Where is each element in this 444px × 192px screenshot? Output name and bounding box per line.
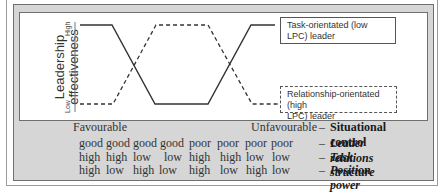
cell: good: [79, 136, 103, 151]
cell: high: [133, 163, 154, 178]
favourable-label: Favourable: [73, 120, 127, 135]
row-dash: –: [319, 136, 325, 151]
cell: poor: [245, 136, 267, 151]
relationship-orientated-line: [80, 25, 280, 104]
legend-task-line1: Task-orientated (low: [287, 20, 389, 31]
cell: high: [246, 163, 267, 178]
row-label: Position power: [330, 163, 371, 192]
cell: high: [189, 163, 210, 178]
cell: low: [220, 163, 238, 178]
row-dash: –: [319, 163, 325, 178]
cell: poor: [189, 136, 211, 151]
cell: poor: [271, 136, 293, 151]
cell: low: [272, 163, 290, 178]
cell: good: [160, 136, 184, 151]
legend-task-orientated: Task-orientated (low LPC) leader: [280, 17, 396, 44]
cell: low: [106, 163, 124, 178]
cell: good: [133, 136, 157, 151]
row-dash: –: [319, 120, 325, 135]
cell: low: [159, 163, 177, 178]
task-orientated-line: [80, 25, 275, 104]
cell: high: [79, 163, 100, 178]
legend-rel-line1: Relationship-orientated (high: [287, 89, 390, 111]
cell: poor: [217, 136, 239, 151]
cell: good: [106, 136, 130, 151]
legend-task-line2: LPC) leader: [287, 31, 389, 42]
legend-relationship-orientated: Relationship-orientated (high LPC) leade…: [280, 86, 397, 113]
unfavourable-label: Unfavourable: [251, 120, 317, 135]
